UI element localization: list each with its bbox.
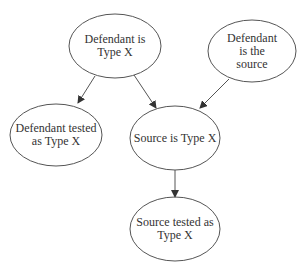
arrow-defendant-type-x-to-source-type-x	[134, 75, 156, 108]
arrow-defendant-is-source-to-source-type-x	[200, 79, 229, 108]
causal-diagram: Defendant is Type X Defendant is the sou…	[0, 0, 308, 271]
arrow-defendant-type-x-to-defendant-tested	[78, 76, 95, 103]
node-label-source-tested: Source tested as Type X	[136, 216, 213, 242]
node-label-source-type-x: Source is Type X	[134, 132, 217, 145]
node-label-defendant-type-x: Defendant is Type X	[85, 33, 146, 59]
node-label-defendant-tested: Defendant tested as Type X	[16, 122, 97, 148]
node-label-defendant-is-source: Defendant is the source	[224, 32, 280, 71]
